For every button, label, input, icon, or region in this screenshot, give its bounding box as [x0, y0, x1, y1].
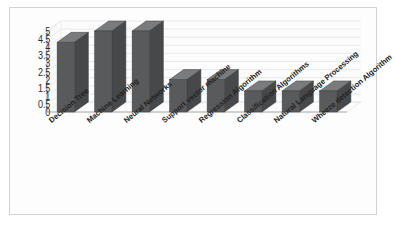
x-axis-category-label: Decision Tree — [47, 86, 91, 125]
chart-x-axis-labels: Decision TreeMachine LearningNeural Netw… — [0, 0, 395, 229]
x-axis-category-label: Regression Algorithm — [197, 67, 263, 125]
x-axis-category-label: Support vector machine — [160, 62, 232, 125]
x-axis-category-label: Wheeze detection Algorithm — [310, 53, 394, 125]
x-axis-category-label: Classification Algorithms — [235, 59, 311, 125]
